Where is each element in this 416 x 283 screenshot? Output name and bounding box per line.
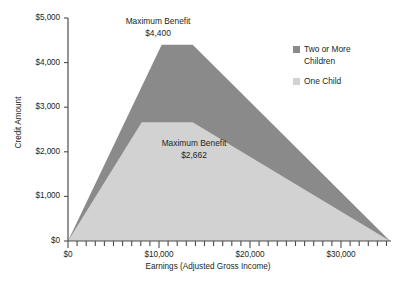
x-tick-label-0: $0	[48, 250, 88, 259]
x-axis-ticks	[68, 241, 387, 248]
annotation-value: $2,662	[142, 150, 246, 162]
legend-label-one-child: One Child	[304, 76, 341, 88]
y-tick-label-1000: $1,000	[16, 191, 60, 200]
legend-swatch-two-or-more-children	[293, 46, 300, 53]
y-tick-label-0: $0	[16, 236, 60, 245]
x-tick-label-30000: $30,000	[313, 250, 369, 259]
annotation-value: $4,400	[108, 28, 208, 40]
x-tick-label-10000: $10,000	[131, 250, 187, 259]
y-tick-label-2000: $2,000	[16, 147, 60, 156]
annotation-max-benefit-one-child: Maximum Benefit $2,662	[142, 138, 246, 161]
legend-label-two-or-more-children: Two or More Children	[304, 44, 370, 67]
annotation-line-1: Maximum Benefit	[108, 16, 208, 28]
legend-item-two-or-more-children: Two or More Children	[293, 44, 411, 67]
y-tick-label-3000: $3,000	[16, 102, 60, 111]
chart-legend: Two or More Children One Child	[293, 44, 411, 97]
y-tick-label-4000: $4,000	[16, 58, 60, 67]
x-tick-label-20000: $20,000	[222, 250, 278, 259]
eitc-credit-amount-chart: $5,000 $4,000 $3,000 $2,000 $1,000 $0 $0…	[0, 0, 416, 283]
legend-item-one-child: One Child	[293, 76, 411, 88]
y-axis-title: Credit Amount	[14, 83, 23, 163]
y-tick-label-5000: $5,000	[16, 13, 60, 22]
legend-swatch-one-child	[293, 78, 300, 85]
annotation-line-1: Maximum Benefit	[142, 138, 246, 150]
annotation-max-benefit-two-or-more: Maximum Benefit $4,400	[108, 16, 208, 39]
x-axis-title: Earnings (Adjusted Gross Income)	[0, 262, 416, 271]
